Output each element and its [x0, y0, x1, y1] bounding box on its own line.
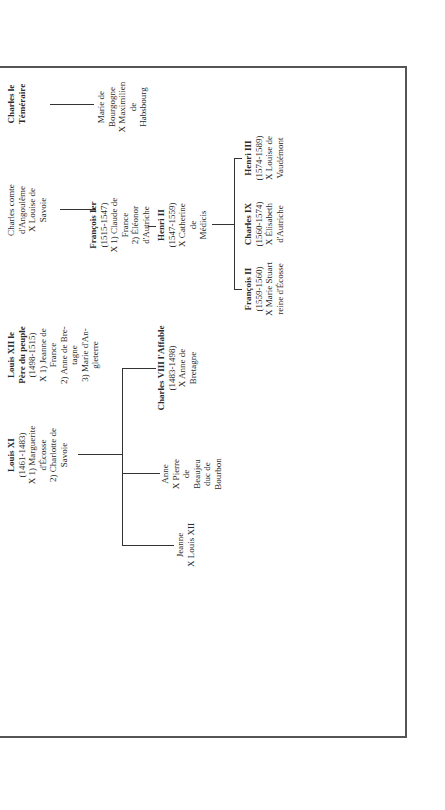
node-line: X Louise de	[27, 168, 38, 252]
node-line: X 1) Marguerite	[27, 400, 38, 510]
node-line: X Louis XII	[186, 520, 197, 570]
node-jeanne: Jeanne X Louis XII	[175, 520, 196, 570]
node-line: de	[181, 446, 192, 502]
node-name: François Ier	[88, 185, 99, 265]
genealogy-chart: Louis XI (1461-1483) X 1) Marguerite d'É…	[0, 0, 445, 810]
node-line: Savoie	[38, 168, 49, 252]
node-name: Louis XII le	[6, 305, 17, 405]
node-charles-viii: Charles VIII l'Affable (1483-1498) X Ann…	[156, 318, 198, 418]
node-line: Savoie	[59, 400, 70, 510]
connector-henri-ii	[212, 224, 234, 225]
node-line: tagne	[69, 305, 80, 405]
node-louis-xi: Louis XI (1461-1483) X 1) Marguerite d'É…	[6, 400, 69, 510]
node-dates: (1560-1574)	[254, 186, 265, 262]
node-line: d'Angoulême	[17, 168, 28, 252]
node-line: Anne	[160, 446, 171, 502]
connector-henri-ii-children	[234, 158, 235, 290]
node-line: X Louise de	[264, 120, 275, 196]
node-charles-angouleme: Charles comte d'Angoulême X Louise de Sa…	[6, 168, 48, 252]
connector-anne	[122, 473, 160, 474]
node-line: 2) Anne de Bre-	[59, 305, 70, 405]
node-line: Jeanne	[175, 520, 186, 570]
node-line: 2) Éléonor	[130, 185, 141, 265]
node-anne: Anne X Pierre de Beaujeu duc de Bourbon	[160, 446, 223, 502]
node-name: Charles VIII l'Affable	[156, 318, 167, 418]
node-dates: (1483-1498)	[167, 318, 178, 418]
node-francois-i: François Ier (1515-1547) X 1) Claude de …	[88, 185, 151, 265]
node-line: X Élisabeth	[264, 186, 275, 262]
node-name-2: Père du peuple	[17, 305, 28, 405]
node-dates: (1498-1515)	[27, 305, 38, 405]
connector-jeanne	[122, 545, 174, 546]
node-line: d'Écosse	[38, 400, 49, 510]
node-henri-iii: Henri III (1574-1589) X Louise de Vaudém…	[243, 120, 285, 196]
node-line: X Catherine	[177, 185, 188, 265]
node-line: 2) Charlotte de	[48, 400, 59, 510]
node-line: Bourbon	[213, 446, 224, 502]
node-dates: (1461-1483)	[17, 400, 28, 510]
connector-charles-viii	[122, 368, 156, 369]
node-name: Charles IX	[243, 186, 254, 262]
node-line: gleterre	[90, 305, 101, 405]
node-line: Beaujeu	[192, 446, 203, 502]
node-line: X Pierre	[171, 446, 182, 502]
node-line: d'Autriche	[275, 186, 286, 262]
node-line: France	[48, 305, 59, 405]
node-line: 3) Marie d'An-	[80, 305, 91, 405]
node-line: Bourgogne	[107, 72, 118, 142]
node-henri-ii: Henri II (1547-1559) X Catherine de Médi…	[156, 185, 209, 265]
node-name: Louis XI	[6, 400, 17, 510]
connector-louis-xi-children	[122, 368, 123, 546]
node-dates: (1515-1547)	[99, 185, 110, 265]
connector-louis-xi	[78, 454, 122, 455]
node-line: X 1) Jeanne de	[38, 305, 49, 405]
node-line: X Anne de	[177, 318, 188, 418]
node-name: Henri III	[243, 120, 254, 196]
node-louis-xii: Louis XII le Père du peuple (1498-1515) …	[6, 305, 101, 405]
node-line: Habsbourg	[138, 72, 149, 142]
node-line: Médicis	[198, 185, 209, 265]
connector-francois-i-henri-ii	[148, 226, 156, 227]
node-charles-ix: Charles IX (1560-1574) X Élisabeth d'Aut…	[243, 186, 285, 262]
node-line: Vaudémont	[275, 120, 286, 196]
node-dates: (1574-1589)	[254, 120, 265, 196]
node-line: duc de	[202, 446, 213, 502]
node-name: Henri II	[156, 185, 167, 265]
connector-francois-ii	[234, 289, 242, 290]
node-marie-bourgogne: Marie de Bourgogne X Maximilien de Habsb…	[96, 72, 149, 142]
node-line: de	[188, 185, 199, 265]
connector-charles-temeraire	[50, 104, 94, 105]
node-line: X Maximilien	[117, 72, 128, 142]
node-charles-temeraire: Charles le Téméraire	[6, 74, 27, 134]
node-line: Marie de	[96, 72, 107, 142]
node-line: X 1) Claude de	[109, 185, 120, 265]
node-line: Charles le	[6, 74, 17, 134]
node-line: Bretagne	[188, 318, 199, 418]
node-dates: (1547-1559)	[167, 185, 178, 265]
node-line: France	[120, 185, 131, 265]
node-line: Charles comte	[6, 168, 17, 252]
connector-henri-iii	[234, 158, 242, 159]
node-line: Téméraire	[17, 74, 28, 134]
node-line: de	[128, 72, 139, 142]
